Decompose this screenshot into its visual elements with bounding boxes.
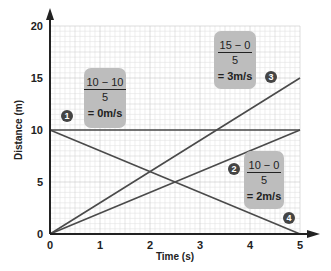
distance-time-chart: 012345 05101520 Time (s) Distance (m)	[0, 0, 331, 271]
svg-text:1: 1	[97, 239, 103, 251]
speed-box-line-2: 10 − 0 5 = 2m/s	[244, 151, 284, 209]
svg-text:2: 2	[147, 239, 153, 251]
speed-box-line-1: 10 − 10 5 = 0m/s	[84, 68, 126, 128]
result: = 3m/s	[214, 70, 256, 82]
y-tick-labels: 05101520	[31, 20, 43, 240]
svg-text:5: 5	[297, 239, 303, 251]
numerator: 10 − 10	[84, 76, 125, 90]
x-tick-labels: 012345	[47, 239, 303, 251]
svg-text:10: 10	[31, 124, 43, 136]
x-axis-arrow-icon	[307, 230, 320, 238]
marker-line-4: 4	[283, 212, 295, 224]
numerator: 10 − 0	[247, 159, 282, 173]
svg-text:0: 0	[37, 228, 43, 240]
y-axis-arrow-icon	[46, 8, 54, 20]
svg-text:0: 0	[47, 239, 53, 251]
numerator: 15 − 0	[218, 39, 253, 53]
denominator: 5	[214, 54, 256, 66]
denominator: 5	[244, 174, 284, 186]
svg-text:4: 4	[247, 239, 254, 251]
speed-box-line-3: 15 − 0 5 = 3m/s	[214, 31, 256, 89]
result: = 0m/s	[84, 107, 126, 119]
svg-text:5: 5	[37, 176, 43, 188]
marker-line-3: 3	[265, 71, 277, 83]
x-axis-label: Time (s)	[156, 251, 194, 262]
y-axis-label: Distance (m)	[13, 100, 24, 160]
svg-text:3: 3	[197, 239, 203, 251]
marker-line-1: 1	[61, 110, 73, 122]
denominator: 5	[84, 91, 126, 103]
svg-text:20: 20	[31, 20, 43, 32]
marker-line-2: 2	[228, 163, 240, 175]
result: = 2m/s	[244, 190, 284, 202]
svg-text:15: 15	[31, 72, 43, 84]
